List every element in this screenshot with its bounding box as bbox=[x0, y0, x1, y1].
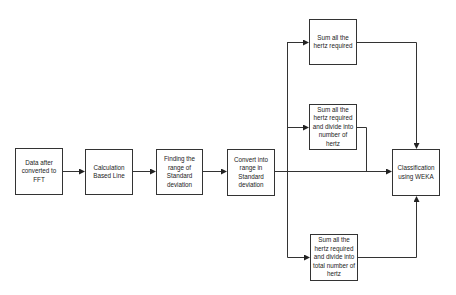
edge-n7-n8 bbox=[358, 197, 417, 258]
node-sum-hertz-divide-number: Sum all the hertz required and divide in… bbox=[309, 104, 357, 150]
edge-n5-n8 bbox=[357, 43, 417, 149]
node-label: Calculation Based Line bbox=[88, 164, 130, 181]
node-sum-hertz-divide-total: Sum all the hertz required and divide in… bbox=[310, 234, 358, 281]
node-sum-hertz: Sum all the hertz required bbox=[309, 19, 357, 65]
node-label: Convert into range in Standard deviation bbox=[230, 156, 272, 190]
node-label: Finding the range of Standard deviation bbox=[159, 155, 200, 189]
edge-n6-n8 bbox=[357, 128, 367, 172]
node-classification-weka: Classification using WEKA bbox=[392, 149, 440, 196]
node-calculation-baseline: Calculation Based Line bbox=[85, 149, 133, 195]
node-label: Sum all the hertz required and divide in… bbox=[313, 236, 355, 279]
node-label: Classification using WEKA bbox=[395, 164, 437, 181]
node-convert-range-std: Convert into range in Standard deviation bbox=[227, 149, 275, 196]
node-label: Data after converted to FFT bbox=[18, 159, 60, 185]
node-finding-range-std: Finding the range of Standard deviation bbox=[156, 149, 203, 195]
node-label: Sum all the hertz required bbox=[312, 34, 354, 51]
node-label: Sum all the hertz required and divide in… bbox=[312, 106, 354, 149]
node-data-after-fft: Data after converted to FFT bbox=[15, 148, 63, 195]
connector-layer bbox=[0, 0, 456, 295]
